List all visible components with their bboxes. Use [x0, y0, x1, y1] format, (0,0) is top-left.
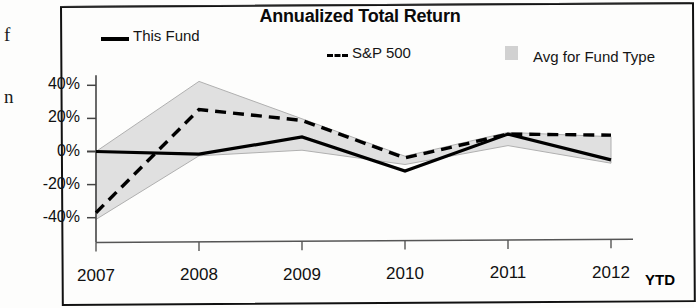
x-axis-ytd-label: YTD — [645, 271, 675, 288]
x-axis-tick-label: 2008 — [164, 265, 234, 285]
x-axis-tick-label: 2010 — [370, 264, 440, 284]
y-axis-tick-label: 40% — [18, 75, 80, 93]
x-axis-line — [96, 239, 633, 242]
y-axis-tick-label: -40% — [18, 208, 80, 226]
x-axis-tick-label: 2012 — [576, 263, 646, 283]
y-axis-tick-label: 20% — [18, 108, 80, 126]
series-band-avg-for-fund-type — [96, 81, 611, 219]
y-axis-tick-label: -20% — [18, 175, 80, 193]
x-axis-tick-label: 2009 — [267, 265, 337, 285]
y-axis-tick-label: 0% — [18, 142, 80, 160]
x-axis-tick-label: 2011 — [473, 263, 543, 283]
x-axis-tick-label: 2007 — [61, 266, 131, 286]
